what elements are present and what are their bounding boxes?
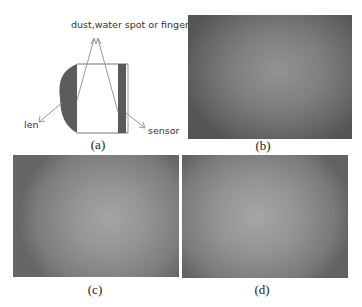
lens-shape bbox=[59, 64, 77, 133]
caption-c: (c) bbox=[75, 282, 115, 298]
panel-c-image bbox=[13, 155, 179, 277]
caption-a: (a) bbox=[78, 137, 118, 153]
caption-d: (d) bbox=[242, 282, 282, 298]
panel-b-image bbox=[188, 15, 352, 139]
caption-b: (b) bbox=[243, 138, 283, 154]
label-lens: len bbox=[24, 119, 39, 130]
sensor-shape bbox=[118, 64, 126, 133]
label-sensor: sensor bbox=[148, 125, 179, 136]
panel-d-image bbox=[182, 155, 348, 278]
